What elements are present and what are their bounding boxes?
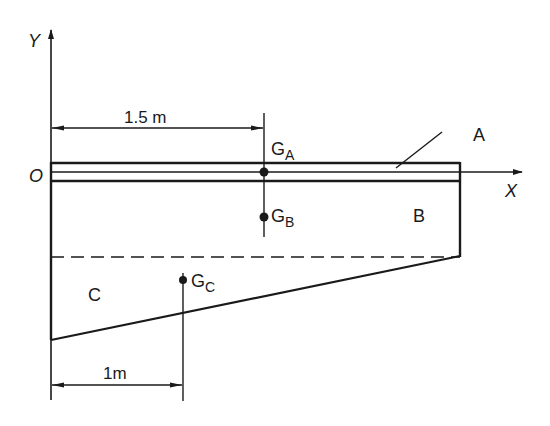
centroid-gb-main: G [271, 206, 285, 226]
origin-label: O [29, 166, 43, 186]
centroid-gb-label: GB [271, 206, 294, 230]
region-c-hypotenuse [51, 256, 460, 340]
centroid-gb-sub: B [285, 214, 294, 230]
centroid-ga-dot [260, 168, 269, 177]
x-axis-label: X [504, 181, 518, 201]
dimension-gc-label: 1m [103, 364, 127, 383]
centroid-gc-label: GC [191, 271, 215, 295]
region-b-label: B [413, 206, 425, 226]
dimension-ga-label: 1.5 m [124, 108, 167, 127]
region-b-rectangle [51, 162, 460, 340]
y-axis-label: Y [28, 31, 42, 51]
composite-area-diagram: Y O X A B C GA GB GC 1.5 m [0, 0, 550, 426]
centroid-gc-dot [179, 276, 187, 284]
region-a-label: A [473, 125, 485, 145]
centroid-gc-sub: C [205, 279, 215, 295]
centroid-ga-sub: A [285, 147, 295, 163]
centroid-gc-main: G [191, 271, 205, 291]
centroid-gb-dot [260, 213, 269, 222]
centroid-ga-label: GA [271, 139, 295, 163]
centroid-ga-main: G [271, 139, 285, 159]
region-c-label: C [88, 285, 101, 305]
